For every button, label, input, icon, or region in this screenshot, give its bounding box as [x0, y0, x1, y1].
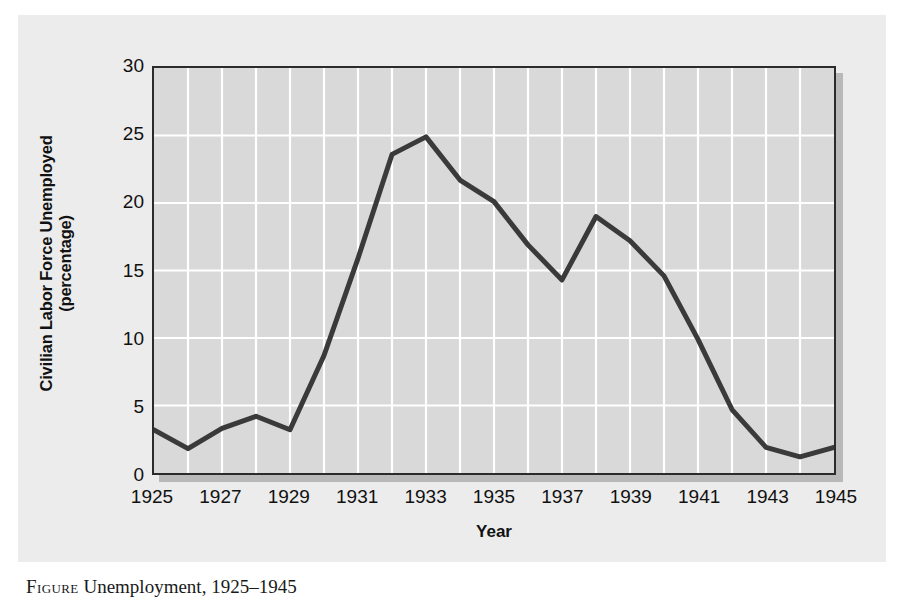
y-axis-title-line-1: Civilian Labor Force Unemployed — [37, 135, 56, 391]
x-tick-label: 1943 — [746, 486, 788, 508]
x-axis-tick-labels: 1925192719291931193319351937193919411943… — [152, 486, 836, 512]
plot-region — [152, 66, 836, 475]
y-axis-tick-labels: 051015202530 — [96, 66, 144, 475]
y-axis-title: Civilian Labor Force Unemployed (percent… — [38, 48, 74, 478]
plot-area — [152, 66, 836, 475]
x-tick-label: 1935 — [473, 486, 515, 508]
figure-caption-label: Figure — [26, 576, 79, 597]
y-tick-label: 15 — [98, 260, 144, 282]
y-tick-label: 5 — [98, 396, 144, 418]
x-tick-label: 1937 — [541, 486, 583, 508]
x-tick-label: 1941 — [678, 486, 720, 508]
y-tick-label: 25 — [98, 123, 144, 145]
y-tick-label: 0 — [98, 464, 144, 486]
x-tick-label: 1933 — [404, 486, 446, 508]
x-axis-title: Year — [152, 522, 836, 542]
x-tick-label: 1927 — [199, 486, 241, 508]
x-tick-label: 1925 — [131, 486, 173, 508]
x-tick-label: 1931 — [336, 486, 378, 508]
y-axis-title-line-2: (percentage) — [56, 135, 75, 391]
y-tick-label: 20 — [98, 191, 144, 213]
x-tick-label: 1929 — [268, 486, 310, 508]
unemployment-line-series — [154, 68, 834, 473]
x-tick-label: 1945 — [815, 486, 857, 508]
x-tick-label: 1939 — [610, 486, 652, 508]
figure-caption-text: Unemployment, 1925–1945 — [83, 576, 296, 597]
y-tick-label: 10 — [98, 328, 144, 350]
y-tick-label: 30 — [98, 55, 144, 77]
figure-caption: Figure Unemployment, 1925–1945 — [26, 576, 886, 598]
